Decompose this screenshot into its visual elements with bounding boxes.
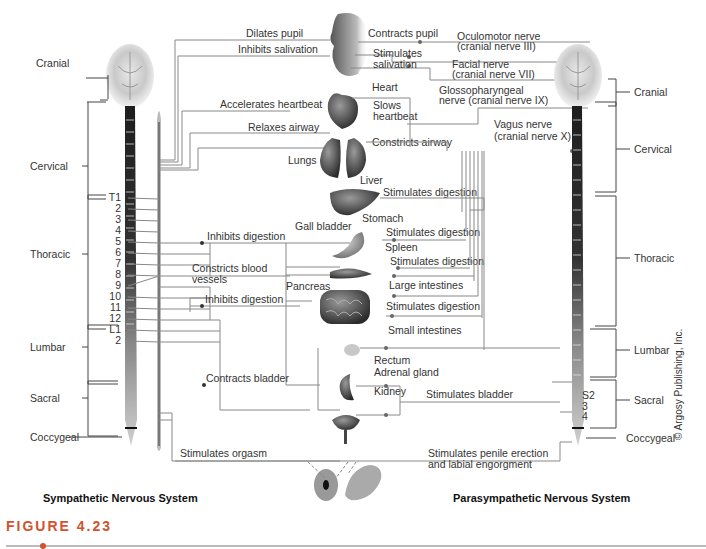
right-label-cervical: Cervical xyxy=(634,143,672,155)
heart-icon xyxy=(328,93,358,129)
effect-contracts-pupil: Contracts pupil xyxy=(368,27,438,39)
intestines-icon xyxy=(320,290,370,324)
figure-rule xyxy=(6,543,706,549)
parasympathetic-title: Parasympathetic Nervous System xyxy=(453,492,631,504)
nerve-oculomotor-line2: (cranial nerve III) xyxy=(457,40,536,52)
left-label-lumbar: Lumbar xyxy=(30,341,66,353)
right-label-coccygeal: Coccygeal xyxy=(626,432,675,444)
organ-lungs-label: Lungs xyxy=(288,154,317,166)
effect-stimulates-bladder: Stimulates bladder xyxy=(426,388,513,400)
effect-accelerates-heartbeat: Accelerates heartbeat xyxy=(220,98,322,110)
organ-pancreas-label: Pancreas xyxy=(286,280,330,292)
right-region-brackets xyxy=(586,79,630,438)
organ-kidney-label: Kidney xyxy=(374,385,407,397)
effect-contracts-bladder: Contracts bladder xyxy=(206,372,289,384)
right-label-thoracic: Thoracic xyxy=(634,252,674,264)
copyright-text: © Argosy Publishing, Inc. xyxy=(673,329,684,440)
left-label-coccygeal: Coccygeal xyxy=(30,431,79,443)
nerve-glossopharyngeal-line2: nerve (cranial nerve IX) xyxy=(439,94,548,106)
effect-stim-penile-line2: and labial engorgment xyxy=(428,458,532,470)
left-brain-icon xyxy=(106,44,154,108)
stomach-icon xyxy=(332,232,364,258)
organ-adrenal-gland-label: Adrenal gland xyxy=(374,366,439,378)
right-vertebra-labels: S2 3 4 xyxy=(582,389,595,422)
bladder-icon xyxy=(332,415,360,444)
left-vertebra-labels: T1 2 3 4 5 6 7 8 9 10 11 12 L1 2 xyxy=(109,191,121,346)
organ-large-intestines-label: Large intestines xyxy=(389,279,463,291)
autonomic-nervous-system-diagram: Cranial Cervical Thoracic Lumbar Sacral … xyxy=(0,0,706,549)
right-label-cranial: Cranial xyxy=(634,86,667,98)
effect-stim-digestion-intestine: Stimulates digestion xyxy=(386,300,480,312)
vertebra-s4: 4 xyxy=(582,410,588,422)
left-label-sacral: Sacral xyxy=(30,392,60,404)
nerve-facial-line2: (cranial nerve VII) xyxy=(452,68,535,80)
right-label-sacral: Sacral xyxy=(634,394,664,406)
effect-dilates-pupil: Dilates pupil xyxy=(246,27,303,39)
rectum-icon xyxy=(344,344,360,356)
organ-small-intestines-label: Small intestines xyxy=(388,324,462,336)
effect-stim-salivation-line2: salivation xyxy=(373,58,417,70)
organ-heart-label: Heart xyxy=(372,81,398,93)
organ-liver-label: Liver xyxy=(360,174,383,186)
effect-inhibits-digestion-upper: Inhibits digestion xyxy=(207,230,285,242)
right-label-lumbar: Lumbar xyxy=(634,344,670,356)
organ-gall-bladder-label: Gall bladder xyxy=(295,220,352,232)
effect-slows-heartbeat-line2: heartbeat xyxy=(373,110,417,122)
left-spinal-cord-icon xyxy=(125,106,137,446)
effect-inhibits-digestion-lower: Inhibits digestion xyxy=(205,293,283,305)
sympathetic-title: Sympathetic Nervous System xyxy=(43,492,198,504)
effect-inhibits-salivation: Inhibits salivation xyxy=(238,43,318,55)
pancreas-icon xyxy=(330,268,372,278)
organ-rectum-label: Rectum xyxy=(374,354,410,366)
left-label-cranial: Cranial xyxy=(36,57,69,69)
effect-stimulates-orgasm: Stimulates orgasm xyxy=(180,447,267,459)
nerve-vagus-line1: Vagus nerve xyxy=(494,118,552,130)
right-brain-icon xyxy=(554,44,602,108)
left-label-thoracic: Thoracic xyxy=(30,248,70,260)
vertebra-l2: 2 xyxy=(115,334,121,346)
effect-stim-digestion-liver: Stimulates digestion xyxy=(383,186,477,198)
effect-constricts-blood-line2: vessels xyxy=(192,273,227,285)
left-label-cervical: Cervical xyxy=(30,160,68,172)
organ-spleen-label: Spleen xyxy=(385,241,418,253)
nerve-vagus-line2: (cranial nerve X) xyxy=(494,130,571,142)
face-icon xyxy=(330,13,368,76)
organ-stomach-label: Stomach xyxy=(362,212,404,224)
genitals-icon xyxy=(314,465,381,501)
lungs-icon xyxy=(320,138,366,178)
figure-label: FIGURE 4.23 xyxy=(6,518,112,534)
effect-relaxes-airway: Relaxes airway xyxy=(248,121,320,133)
kidney-icon xyxy=(340,374,354,400)
